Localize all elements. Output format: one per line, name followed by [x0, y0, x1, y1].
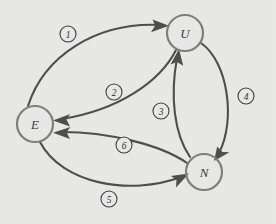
- edge-label-6[interactable]: 6: [116, 137, 132, 153]
- edge-3[interactable]: [171, 49, 191, 157]
- edge-label-4[interactable]: 4: [238, 88, 254, 104]
- graph-canvas: E U N 1 2 3 4 5: [0, 0, 276, 224]
- edge-1-path: [28, 25, 160, 106]
- node-N[interactable]: N: [186, 154, 222, 190]
- edge-label-2-text: 2: [112, 88, 117, 98]
- node-E-label: E: [30, 117, 39, 132]
- edge-4[interactable]: [201, 43, 230, 161]
- edge-4-path: [201, 43, 228, 153]
- edge-5[interactable]: [40, 142, 189, 188]
- edge-label-6-text: 6: [122, 141, 127, 151]
- edge-label-1[interactable]: 1: [60, 26, 76, 42]
- node-U-label: U: [180, 26, 191, 41]
- edge-label-1-text: 1: [66, 30, 71, 40]
- edge-label-4-text: 4: [244, 92, 249, 102]
- edge-label-5-text: 5: [107, 195, 112, 205]
- edge-label-5[interactable]: 5: [101, 191, 117, 207]
- edge-label-3[interactable]: 3: [153, 103, 169, 119]
- node-E[interactable]: E: [17, 106, 53, 142]
- graph-diagram: E U N 1 2 3 4 5: [0, 0, 276, 224]
- node-U[interactable]: U: [167, 15, 203, 51]
- edge-2-arrowhead: [53, 114, 70, 127]
- edge-3-path: [174, 58, 190, 157]
- node-N-label: N: [199, 165, 210, 180]
- edge-1[interactable]: [28, 20, 169, 107]
- edge-label-3-text: 3: [158, 107, 164, 117]
- edge-label-2[interactable]: 2: [106, 84, 122, 100]
